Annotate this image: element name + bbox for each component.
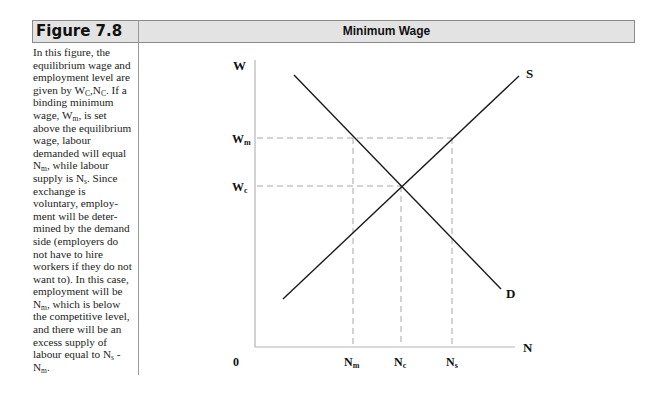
supply-label: S xyxy=(526,66,533,81)
labour-market-chart: W N 0 S D Wm Wc Nm Nc Ns xyxy=(0,0,667,397)
supply-curve xyxy=(283,76,519,299)
y-axis-label: W xyxy=(233,58,246,73)
demand-label: D xyxy=(506,286,515,301)
nc-label: Nc xyxy=(394,355,407,370)
wm-label: Wm xyxy=(232,132,251,147)
nm-label: Nm xyxy=(344,355,360,370)
x-axis-label: N xyxy=(523,340,533,355)
demand-curve xyxy=(294,75,501,289)
origin-label: 0 xyxy=(233,355,239,369)
wc-label: Wc xyxy=(232,180,248,195)
ns-label: Ns xyxy=(446,355,458,370)
